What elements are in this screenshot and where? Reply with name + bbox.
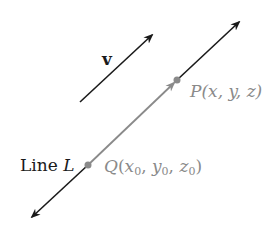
line-diagram: v Line L Q(x0, y0, z0) P(x, y, z): [0, 0, 279, 225]
diagram-svg: [0, 0, 279, 225]
paren-close: ): [195, 156, 202, 176]
point-P-dot: [174, 77, 181, 84]
line-L-label: Line L: [20, 157, 74, 174]
vector-v-label: v: [102, 51, 112, 68]
point-Q-dot: [85, 162, 92, 169]
direction-vector-v-arrow: [80, 35, 152, 102]
point-P-label: P(x, y, z): [190, 83, 262, 100]
point-Q-label: Q(x0, y0, z0): [104, 158, 202, 175]
sep-1: ,: [141, 156, 152, 176]
line-L-upper-arrow: [177, 22, 239, 80]
point-P-coords: (x, y, z): [201, 81, 262, 101]
line-label-prefix: Line: [20, 155, 63, 175]
q-x: x: [125, 156, 135, 176]
vector-v-text: v: [102, 49, 112, 69]
point-P-name: P: [190, 81, 201, 101]
point-Q-name: Q: [104, 156, 118, 176]
q-y: y: [152, 156, 162, 176]
sep-2: ,: [169, 156, 180, 176]
vector-QP-arrow: [88, 83, 174, 165]
paren-open: (: [118, 156, 125, 176]
line-label-var: L: [63, 155, 74, 175]
q-y-sub: 0: [162, 165, 169, 178]
